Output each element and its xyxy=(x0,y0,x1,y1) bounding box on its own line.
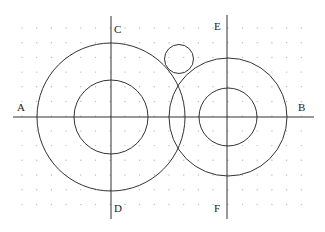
grid-dot xyxy=(154,86,155,87)
grid-dot xyxy=(154,189,155,190)
grid-dot xyxy=(301,42,302,43)
grid-dot xyxy=(301,145,302,146)
point-label-e: E xyxy=(214,21,221,32)
grid-dot xyxy=(124,86,125,87)
grid-dot xyxy=(124,71,125,72)
grid-dot xyxy=(301,204,302,205)
grid-dot xyxy=(168,189,169,190)
diagram-canvas xyxy=(0,0,325,232)
grid-dot xyxy=(139,86,140,87)
grid-dot xyxy=(80,42,81,43)
grid-dot xyxy=(242,86,243,87)
grid-dot xyxy=(95,57,96,58)
grid-dot xyxy=(183,57,184,58)
grid-dot xyxy=(183,189,184,190)
grid-dot xyxy=(242,42,243,43)
grid-dot xyxy=(242,71,243,72)
grid-dot xyxy=(257,42,258,43)
grid-dot xyxy=(124,204,125,205)
grid-dot xyxy=(65,130,66,131)
grid-dot xyxy=(21,145,22,146)
grid-dot xyxy=(124,27,125,28)
grid-dot xyxy=(198,204,199,205)
grid-dot xyxy=(65,160,66,161)
grid-dot xyxy=(36,71,37,72)
grid-dot xyxy=(124,160,125,161)
grid-dot xyxy=(154,27,155,28)
grid-dot xyxy=(139,42,140,43)
grid-dot xyxy=(139,174,140,175)
point-label-b: B xyxy=(298,102,305,113)
grid-dot xyxy=(124,57,125,58)
grid-dot xyxy=(21,174,22,175)
grid-dot xyxy=(242,27,243,28)
grid-dot xyxy=(124,101,125,102)
grid-dot xyxy=(271,204,272,205)
grid-dot xyxy=(271,189,272,190)
grid-dot xyxy=(154,101,155,102)
grid-dot xyxy=(139,204,140,205)
grid-dot xyxy=(286,189,287,190)
grid-dot xyxy=(95,71,96,72)
grid-dot xyxy=(65,42,66,43)
grid-dot xyxy=(80,86,81,87)
grid-dot xyxy=(257,27,258,28)
grid-dot xyxy=(286,160,287,161)
grid-dot xyxy=(154,145,155,146)
grid-dot xyxy=(154,42,155,43)
grid-dot xyxy=(271,71,272,72)
grid-dot xyxy=(242,130,243,131)
grid-dot xyxy=(198,160,199,161)
grid-dot xyxy=(286,101,287,102)
grid-dot xyxy=(212,71,213,72)
grid-dot xyxy=(65,189,66,190)
grid-dot xyxy=(95,27,96,28)
grid-dot xyxy=(65,204,66,205)
grid-dot xyxy=(301,57,302,58)
grid-dot xyxy=(183,204,184,205)
grid-dot xyxy=(271,42,272,43)
grid-dot xyxy=(301,86,302,87)
grid-dot xyxy=(21,42,22,43)
grid-dot xyxy=(183,160,184,161)
grid-dot xyxy=(286,71,287,72)
grid-dot xyxy=(154,204,155,205)
grid-dot xyxy=(301,160,302,161)
grid-dot xyxy=(168,130,169,131)
grid-dot xyxy=(257,57,258,58)
grid-dot xyxy=(212,42,213,43)
grid-dot xyxy=(51,57,52,58)
grid-dot xyxy=(95,130,96,131)
point-label-a: A xyxy=(17,102,25,113)
axis-lines xyxy=(13,15,314,219)
grid-dot xyxy=(198,101,199,102)
grid-dot xyxy=(212,101,213,102)
grid-dot xyxy=(286,86,287,87)
circle-small-tangent xyxy=(165,45,194,74)
grid-dot xyxy=(212,57,213,58)
grid-dot xyxy=(257,204,258,205)
grid-dot xyxy=(36,42,37,43)
grid-dot xyxy=(198,189,199,190)
grid-dot xyxy=(21,86,22,87)
grid-dot xyxy=(21,160,22,161)
grid-dot xyxy=(80,145,81,146)
grid-dot xyxy=(198,27,199,28)
grid-dot xyxy=(51,204,52,205)
grid-dot xyxy=(154,160,155,161)
grid-dot xyxy=(21,57,22,58)
grid-dot xyxy=(198,86,199,87)
grid-dot xyxy=(168,145,169,146)
grid-dot xyxy=(168,160,169,161)
grid-dot xyxy=(51,130,52,131)
grid-dot xyxy=(95,101,96,102)
grid-dot xyxy=(198,174,199,175)
grid-dot xyxy=(21,71,22,72)
grid-dot xyxy=(257,86,258,87)
grid-dot xyxy=(301,189,302,190)
grid-dot xyxy=(286,145,287,146)
grid-dot xyxy=(183,174,184,175)
grid-dot xyxy=(51,189,52,190)
grid-dot xyxy=(154,130,155,131)
grid-dot xyxy=(95,174,96,175)
